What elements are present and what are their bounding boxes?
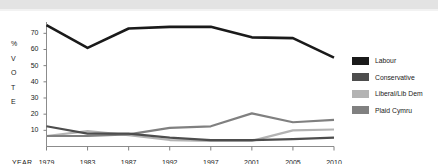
y-axis-tick-label: 40 [23, 78, 39, 85]
legend-label-conservative: Conservative [375, 74, 415, 81]
legend-swatch-plaid-cymru [352, 106, 369, 114]
x-axis-tick-label: 1997 [196, 159, 226, 164]
legend-swatch-conservative [352, 73, 369, 81]
legend-label-liberal-lib-dem: Liberal/Lib Dem [375, 90, 423, 97]
vote-share-line-chart: % V O T E 10203040506070 197919831987199… [0, 11, 438, 164]
legend-swatch-labour [352, 57, 369, 65]
legend-item-labour: Labour [352, 55, 438, 66]
legend-label-labour: Labour [375, 57, 396, 64]
chart-legend: LabourConservativeLiberal/Lib DemPlaid C… [352, 55, 438, 121]
y-axis-tick-label: 30 [23, 94, 39, 101]
x-axis-tick-label: 1992 [155, 159, 185, 164]
legend-item-conservative: Conservative [352, 72, 438, 83]
y-axis-tick-label: 10 [23, 126, 39, 133]
chart-page: % V O T E 10203040506070 197919831987199… [0, 0, 438, 164]
x-axis-tick-label: 1987 [114, 159, 144, 164]
y-axis-tick-label: 60 [23, 45, 39, 52]
data-series-group [47, 25, 335, 141]
legend-label-plaid-cymru: Plaid Cymru [375, 107, 412, 114]
top-banner [0, 0, 438, 9]
x-axis-tick-label: 1979 [32, 159, 62, 164]
y-axis-tick-label: 20 [23, 110, 39, 117]
x-axis-tick-label: 2001 [237, 159, 267, 164]
legend-item-plaid-cymru: Plaid Cymru [352, 105, 438, 116]
legend-item-liberal-lib-dem: Liberal/Lib Dem [352, 88, 438, 99]
x-axis-tick-label: 2005 [278, 159, 308, 164]
x-axis-ticks [47, 147, 335, 151]
y-axis-tick-label: 50 [23, 62, 39, 69]
y-axis-tick-label: 70 [23, 29, 39, 36]
series-line-labour [47, 25, 335, 57]
legend-swatch-liberal-lib-dem [352, 90, 369, 98]
x-axis-title: YEAR [12, 159, 32, 164]
x-axis-tick-label: 2010 [319, 159, 349, 164]
x-axis-tick-label: 1983 [73, 159, 103, 164]
series-line-conservative [47, 126, 335, 140]
